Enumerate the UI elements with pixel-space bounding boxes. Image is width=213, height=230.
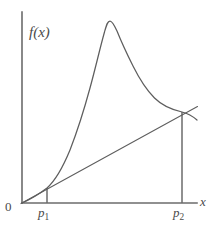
function-plot-figure: f(x) x 0 p1 p2: [0, 0, 213, 230]
function-curve: [22, 21, 197, 203]
y-axis-label: f(x): [29, 25, 50, 40]
x-axis-label: x: [200, 195, 206, 208]
secant-line: [21, 107, 198, 204]
origin-label: 0: [5, 200, 12, 213]
p2-tick-label: p2: [173, 206, 184, 222]
p1-tick-label: p1: [38, 206, 49, 222]
p1-label-subscript: 1: [45, 212, 50, 222]
p2-label-subscript: 2: [180, 212, 185, 222]
